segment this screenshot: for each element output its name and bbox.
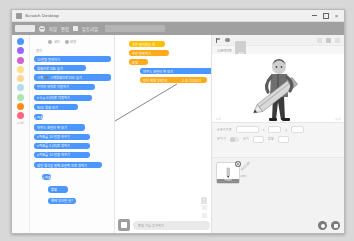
large-stage-icon[interactable]: [326, 38, 331, 43]
sprite-direction-input[interactable]: [278, 136, 289, 143]
palette-block[interactable]: 마우스 포인터 쪽 보기: [34, 124, 85, 130]
sprite-visibility-toggle[interactable]: [230, 137, 239, 142]
lightbulb-icon[interactable]: [73, 26, 78, 31]
project-name-input[interactable]: [105, 25, 165, 32]
block-label: y 좌표: [42, 175, 50, 180]
sprite-y-input[interactable]: [291, 126, 304, 133]
palette-block[interactable]: 10 만큼 움직이기: [34, 56, 111, 62]
category-sensing[interactable]: [17, 84, 24, 91]
close-icon[interactable]: ×: [331, 10, 342, 21]
palette-block[interactable]: 벽에 닿으면 튕기기: [48, 198, 76, 204]
palette-block[interactable]: x: 0 y: 0 (으)로 이동하기: [34, 95, 92, 101]
tab-costumes[interactable]: 모양: [65, 39, 77, 44]
block-label: 마우스 포인터 쪽 보기: [143, 69, 173, 74]
add-extension-icon[interactable]: [118, 219, 130, 231]
window-title: Scratch Desktop: [25, 13, 59, 18]
paint-brush-icon[interactable]: [240, 161, 250, 172]
category-myblocks[interactable]: [17, 112, 24, 119]
add-backdrop-glyph: [334, 224, 338, 228]
drag-connector-line: [115, 81, 211, 141]
sprite-thumb-glyph: [222, 167, 235, 179]
palette-reporter[interactable]: x 좌표: [34, 114, 43, 120]
category-events[interactable]: [17, 66, 24, 73]
toggle-knob: [230, 137, 235, 142]
block-label: x 좌표를 0 (으)로 정하기: [37, 143, 70, 148]
tab-costumes-label: 모양: [70, 39, 76, 44]
add-sprite-glyph: [321, 224, 325, 228]
sprite-x-input[interactable]: [268, 126, 281, 133]
category-sound[interactable]: [17, 57, 24, 64]
block-label: x 좌표를 10 만큼 바꾸기: [37, 134, 70, 139]
block-label: 방향: [51, 187, 57, 192]
palette-block[interactable]: x 좌표를 0 (으)로 정하기: [34, 143, 90, 149]
sprite-list-pane: Pencil 그리기: [212, 158, 344, 234]
palette-block[interactable]: 방향으로 15도 돌기: [34, 65, 86, 71]
trash-icon[interactable]: [201, 197, 207, 204]
category-operators[interactable]: [17, 94, 24, 101]
category-motion[interactable]: [17, 38, 24, 45]
script-block-forever[interactable]: 무한 반복하기: [129, 50, 169, 56]
palette-section-header: 동작: [36, 48, 111, 53]
zoom-in-icon[interactable]: [202, 205, 207, 210]
block-label: 모양: [132, 60, 138, 65]
block-label: 벽에 닿으면 튕기기: [51, 198, 73, 203]
script-block[interactable]: 모양: [129, 59, 148, 65]
palette-block[interactable]: 90 도 방향 보기: [34, 104, 78, 110]
sprite-name-label: 스프라이트: [217, 128, 232, 132]
block-label: x: 0 y: 0 (으)로 이동하기: [37, 95, 70, 100]
stage-sub-header: 스프라이트 무대: [212, 46, 344, 54]
globe-icon[interactable]: [39, 26, 45, 32]
palette-block[interactable]: 회전 방식을 왼쪽-오른쪽 으로 정하기: [34, 162, 102, 168]
block-palette[interactable]: 코드 모양 동작 10 만큼 움직이기 방향으로 15도 돌기 시계시계방향으로…: [30, 35, 115, 234]
block-label: 무작위 위치로 이동하기: [37, 84, 69, 89]
palette-block[interactable]: 시계시계방향으로 15도 돌기: [34, 74, 111, 80]
block-label: y 좌표를 10 만큼 바꾸기: [37, 152, 70, 157]
costume-icon: [65, 40, 69, 44]
green-flag-icon[interactable]: [216, 38, 221, 43]
sprite-direction-label: 방향: [268, 137, 274, 141]
palette-tabs: 코드 모양: [34, 39, 111, 44]
sprite-info-panel: 스프라이트 x y 보이기 크기 방향: [212, 123, 344, 158]
palette-reporter[interactable]: y 좌표: [42, 174, 51, 180]
add-sprite-icon[interactable]: [318, 221, 327, 230]
minimize-icon[interactable]: [309, 10, 320, 21]
category-rail: 내 블록: [12, 35, 30, 234]
palette-reporter[interactable]: 방향: [48, 186, 68, 192]
palette-block[interactable]: x 좌표를 10 만큼 바꾸기: [34, 134, 90, 140]
stage-canvas[interactable]: x: 0 y: 0: [212, 54, 344, 123]
extension-glyph: [121, 222, 127, 228]
small-stage-icon[interactable]: [317, 38, 322, 43]
block-label: 마우스 포인터 쪽 보기: [37, 125, 67, 130]
palette-block[interactable]: y 좌표를 10 만큼 바꾸기: [34, 152, 90, 158]
stop-icon[interactable]: [225, 38, 230, 43]
tab-code[interactable]: 코드: [48, 39, 60, 44]
sprite-action-buttons: [318, 221, 340, 230]
category-variables[interactable]: [17, 103, 24, 110]
paint-label: 그리기: [240, 174, 246, 178]
stage-coordinates: x: 0 y: 0: [212, 115, 344, 122]
sprite-y-label: y: [285, 128, 286, 132]
block-label: 방향으로 15도 돌기: [37, 66, 63, 71]
sprite-info-row-2: 보이기 크기 방향: [217, 136, 339, 143]
script-block-hat[interactable]: 깃발 클릭했을 때: [129, 41, 165, 47]
menu-item-tutorial[interactable]: 튜토리얼: [82, 26, 98, 32]
menu-item-file[interactable]: 파일: [49, 26, 57, 32]
stage-coord-x: x: 0: [216, 117, 221, 121]
category-looks[interactable]: [17, 47, 24, 54]
scratch-window: Scratch Desktop × 파일 편집 튜토리얼 내 블록: [11, 9, 345, 234]
palette-block[interactable]: 무작위 위치로 이동하기: [34, 84, 95, 90]
menu-item-edit[interactable]: 편집: [61, 26, 69, 32]
add-extension-button[interactable]: 확장 기능 추가하기: [133, 221, 210, 230]
sprite-size-input[interactable]: [253, 136, 264, 143]
sprite-pencil-character[interactable]: [247, 54, 309, 123]
maximize-icon[interactable]: [320, 10, 331, 21]
add-backdrop-icon[interactable]: [331, 221, 340, 230]
sprite-thumbnail[interactable]: Pencil: [216, 162, 240, 184]
category-control[interactable]: [17, 75, 24, 82]
fullscreen-icon[interactable]: [335, 38, 340, 43]
script-canvas[interactable]: 깃발 클릭했을 때 무한 반복하기 모양 마우스 포인터 쪽 보기 10 만큼 …: [115, 35, 211, 234]
scratch-logo: [15, 25, 35, 32]
script-block[interactable]: 마우스 포인터 쪽 보기: [140, 68, 211, 74]
zoom-out-icon[interactable]: [202, 213, 207, 218]
sprite-name-input[interactable]: [236, 126, 259, 133]
